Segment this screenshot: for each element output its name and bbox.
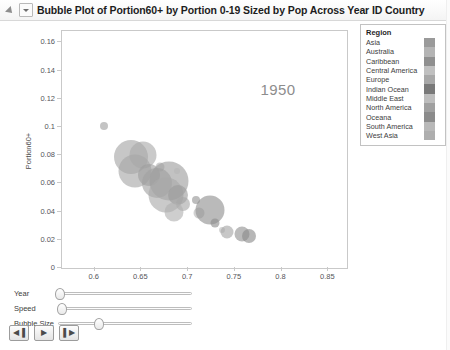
legend-item[interactable]: Asia: [366, 38, 441, 47]
legend-items: AsiaAustraliaCaribbeanCentral AmericaEur…: [366, 38, 441, 140]
y-axis-tick-label: 0.02: [40, 234, 55, 243]
step-forward-button[interactable]: ▌▶: [59, 325, 79, 341]
y-axis-tick-mark: [57, 267, 61, 268]
y-axis-label: Portion60+: [24, 133, 33, 170]
plot-area[interactable]: 1950: [61, 30, 348, 269]
playback-button-group: ◀▐▶▌▶: [9, 325, 79, 341]
legend-item-label: Indian Ocean: [366, 85, 409, 94]
legend-item[interactable]: Indian Ocean: [366, 84, 441, 93]
legend-item-label: West Asia: [366, 131, 398, 140]
legend-item[interactable]: Europe: [366, 75, 441, 84]
x-axis-tick-mark: [94, 267, 95, 271]
slider-label: Speed: [14, 304, 58, 313]
step-back-button[interactable]: ◀▐: [9, 325, 29, 341]
page-title: Bubble Plot of Portion60+ by Portion 0-1…: [37, 4, 425, 16]
x-axis-tick-mark: [234, 267, 235, 271]
x-axis-tick-mark: [140, 267, 141, 271]
x-axis-tick-mark: [327, 267, 328, 271]
play-button[interactable]: ▶: [34, 325, 54, 341]
slider-thumb[interactable]: [94, 318, 104, 330]
legend-item-label: Oceana: [366, 113, 391, 122]
legend-item[interactable]: North America: [366, 103, 441, 112]
x-axis-tick-label: 0.75: [227, 272, 242, 281]
y-axis-tick-mark: [57, 126, 61, 127]
y-axis-tick-label: 0.06: [40, 178, 55, 187]
x-axis-tick-label: 0.8: [275, 272, 285, 281]
legend-item[interactable]: South America: [366, 122, 441, 131]
step-back-icon: ◀▐: [10, 326, 28, 340]
legend-item[interactable]: Oceana: [366, 112, 441, 121]
legend-item-label: South America: [366, 122, 413, 131]
legend-item-label: Caribbean: [366, 57, 399, 66]
y-axis-tick-mark: [57, 41, 61, 42]
legend-color-swatch: [424, 47, 435, 56]
bubble-point[interactable]: [195, 196, 224, 225]
slider-row: Year: [14, 287, 192, 299]
bubble-plot-panel: Portion60+ Portion 0-19 1950 00.020.040.…: [0, 21, 450, 281]
bubble-point[interactable]: [100, 122, 108, 130]
legend-item[interactable]: West Asia: [366, 131, 441, 140]
bubble-point[interactable]: [242, 229, 256, 243]
legend-item[interactable]: Middle East: [366, 94, 441, 103]
window-titlebar: Bubble Plot of Portion60+ by Portion 0-1…: [0, 0, 450, 21]
y-axis-tick-label: 0.04: [40, 206, 55, 215]
y-axis-tick-label: 0.16: [40, 37, 55, 46]
x-axis-tick-label: 0.7: [182, 272, 192, 281]
legend-color-swatch: [424, 57, 435, 66]
y-axis-tick-mark: [57, 211, 61, 212]
slider-label: Year: [14, 289, 58, 298]
legend-title: Region: [366, 28, 441, 37]
legend-item-label: North America: [366, 103, 412, 112]
bubble-point[interactable]: [174, 168, 180, 174]
bubble-point[interactable]: [221, 226, 234, 239]
legend-item-label: Central America: [366, 66, 417, 75]
legend-item-label: Europe: [366, 75, 389, 84]
step-forward-icon: ▌▶: [60, 326, 78, 340]
chevron-down-icon[interactable]: [19, 3, 33, 17]
legend-color-swatch: [424, 112, 435, 121]
legend-item-label: Australia: [366, 47, 394, 56]
legend-item[interactable]: Caribbean: [366, 57, 441, 66]
y-axis-tick-mark: [57, 182, 61, 183]
year-annotation: 1950: [261, 81, 296, 98]
y-axis-tick-mark: [57, 239, 61, 240]
legend-color-swatch: [424, 122, 435, 131]
x-axis-tick-mark: [187, 267, 188, 271]
bubble-point[interactable]: [164, 202, 183, 221]
slider-speed[interactable]: [58, 302, 192, 314]
slider-thumb[interactable]: [55, 288, 65, 300]
legend-color-swatch: [424, 94, 435, 103]
legend-item[interactable]: Australia: [366, 47, 441, 56]
scrollbar-track[interactable]: [446, 0, 450, 350]
y-axis-tick-label: 0.14: [40, 65, 55, 74]
slider-thumb[interactable]: [57, 303, 67, 315]
y-axis-tick-label: 0.12: [40, 93, 55, 102]
y-axis-tick-label: 0.1: [45, 121, 55, 130]
x-axis-tick-label: 0.85: [320, 272, 335, 281]
legend-color-swatch: [424, 75, 435, 84]
legend-color-swatch: [424, 38, 435, 47]
slider-row: Speed: [14, 302, 192, 314]
slider-track[interactable]: [58, 292, 192, 295]
disclosure-triangle-icon[interactable]: [6, 6, 15, 15]
play-icon: ▶: [35, 326, 53, 340]
legend-panel: Region AsiaAustraliaCaribbeanCentral Ame…: [360, 24, 446, 146]
x-axis-tick-label: 0.65: [133, 272, 148, 281]
y-axis-tick-mark: [57, 70, 61, 71]
x-axis-tick-mark: [281, 267, 282, 271]
y-axis-tick-mark: [57, 154, 61, 155]
legend-color-swatch: [424, 103, 435, 112]
bubble-point[interactable]: [211, 218, 220, 227]
y-axis-tick-label: 0: [51, 263, 55, 272]
legend-color-swatch: [424, 84, 435, 93]
legend-color-swatch: [424, 66, 435, 75]
legend-item-label: Asia: [366, 38, 380, 47]
animation-controls: YearSpeedBubble Size ◀▐▶▌▶: [0, 283, 450, 350]
legend-item[interactable]: Central America: [366, 66, 441, 75]
slider-track[interactable]: [58, 307, 192, 310]
slider-year[interactable]: [58, 287, 192, 299]
y-axis-tick-mark: [57, 98, 61, 99]
y-axis-tick-label: 0.08: [40, 150, 55, 159]
legend-item-label: Middle East: [366, 94, 404, 103]
legend-color-swatch: [424, 131, 435, 140]
